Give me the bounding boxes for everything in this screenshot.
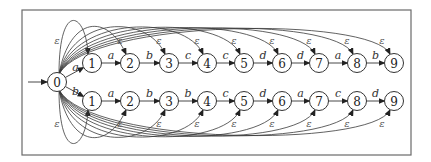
epsilon-label-top-2: ε	[117, 35, 122, 46]
epsilon-label-bottom-3: ε	[156, 118, 161, 129]
state-bottom-7: 7	[310, 92, 329, 111]
state-bottom-6: 6	[273, 92, 292, 111]
state-bottom-5: 5	[235, 92, 254, 111]
state-bottom-1: 1	[83, 92, 102, 111]
transition-label-bottom-6-to-7: a	[297, 87, 304, 100]
state-label: 3	[165, 57, 173, 71]
epsilon-label-top-3: ε	[156, 35, 161, 46]
transition-label-bottom-3-to-4: b	[184, 87, 191, 100]
transition-label-bottom-4-to-5: c	[222, 87, 228, 100]
epsilon-label-bottom-2: ε	[117, 118, 122, 129]
states: 1234567891234567890	[48, 54, 404, 111]
transition-label-top-4-to-5: c	[222, 49, 228, 62]
epsilon-label-bottom-4: ε	[194, 118, 199, 129]
state-label: 3	[165, 95, 173, 109]
state-top-5: 5	[235, 54, 254, 73]
state-bottom-8: 8	[348, 92, 367, 111]
state-label: 4	[203, 57, 211, 71]
transition-label-bottom-2-to-3: b	[146, 87, 153, 100]
state-top-8: 8	[348, 54, 367, 73]
state-label: 9	[390, 95, 398, 109]
transition-label-top-5-to-6: d	[259, 49, 266, 62]
state-start-0: 0	[48, 73, 67, 92]
state-bottom-4: 4	[198, 92, 217, 111]
state-top-9: 9	[385, 54, 404, 73]
state-label: 7	[315, 57, 323, 71]
transition-label-bottom-0-to-1: b	[72, 85, 79, 98]
epsilon-label-top-1: ε	[54, 35, 59, 46]
state-top-4: 4	[198, 54, 217, 73]
transition-label-top-7-to-8: a	[335, 49, 342, 62]
epsilon-label-top-7: ε	[306, 35, 311, 46]
epsilon-label-bottom-1: ε	[54, 118, 59, 129]
state-top-3: 3	[160, 54, 179, 73]
state-label: 2	[126, 57, 134, 71]
epsilon-label-bottom-5: ε	[231, 118, 236, 129]
state-label: 8	[353, 57, 361, 71]
transition-label-bottom-5-to-6: d	[259, 87, 266, 100]
state-top-1: 1	[83, 54, 102, 73]
transition-label-bottom-1-to-2: a	[108, 87, 115, 100]
transition-label-top-0-to-1: a	[72, 61, 79, 74]
epsilon-label-bottom-7: ε	[306, 118, 311, 129]
epsilon-label-top-6: ε	[269, 35, 274, 46]
state-label: 4	[203, 95, 211, 109]
epsilon-label-top-9: ε	[379, 35, 384, 46]
epsilon-label-bottom-6: ε	[269, 118, 274, 129]
state-label: 1	[88, 95, 96, 109]
epsilon-label-bottom-9: ε	[379, 118, 384, 129]
state-bottom-2: 2	[121, 92, 140, 111]
transition-label-bottom-7-to-8: c	[335, 87, 341, 100]
state-bottom-3: 3	[160, 92, 179, 111]
transition-label-bottom-8-to-9: d	[372, 87, 379, 100]
automaton-diagram: 1234567891234567890 εεεεεεεεεaabccddabεε…	[0, 0, 431, 162]
transition-label-top-8-to-9: b	[372, 49, 379, 62]
state-label: 7	[315, 95, 323, 109]
transition-label-top-3-to-4: c	[185, 49, 191, 62]
transition-label-top-2-to-3: b	[146, 49, 153, 62]
epsilon-label-top-4: ε	[194, 35, 199, 46]
state-label: 2	[126, 95, 134, 109]
epsilon-label-bottom-8: ε	[344, 118, 349, 129]
state-label: 0	[53, 76, 61, 90]
state-label: 9	[390, 57, 398, 71]
transition-labels: εεεεεεεεεaabccddabεεεεεεεεεbabbcdacd	[54, 35, 384, 129]
state-bottom-9: 9	[385, 92, 404, 111]
state-label: 8	[353, 95, 361, 109]
state-label: 5	[240, 95, 248, 109]
state-top-6: 6	[273, 54, 292, 73]
transition-label-top-1-to-2: a	[108, 49, 115, 62]
state-label: 6	[278, 57, 286, 71]
state-label: 5	[240, 57, 248, 71]
state-label: 6	[278, 95, 286, 109]
state-label: 1	[88, 57, 96, 71]
epsilon-transitions	[59, 20, 390, 143]
state-top-7: 7	[310, 54, 329, 73]
epsilon-label-top-8: ε	[344, 35, 349, 46]
state-top-2: 2	[121, 54, 140, 73]
epsilon-label-top-5: ε	[231, 35, 236, 46]
transition-label-top-6-to-7: d	[297, 49, 304, 62]
